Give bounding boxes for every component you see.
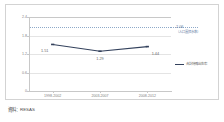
reference-value-label: 2.06（人口置換水準） bbox=[176, 25, 200, 34]
y-tick-mark bbox=[27, 91, 29, 92]
point-value-label: 1.29 bbox=[96, 57, 103, 61]
x-tick-mark bbox=[53, 91, 54, 93]
y-tick-mark bbox=[27, 17, 29, 18]
x-tick-label: 1998-2002 bbox=[44, 94, 61, 98]
y-tick-mark bbox=[27, 36, 29, 37]
reference-value: 2.06 bbox=[176, 25, 183, 29]
series-marker bbox=[51, 44, 54, 46]
x-tick-mark bbox=[100, 91, 101, 93]
y-tick-mark bbox=[27, 54, 29, 55]
series-polyline bbox=[53, 44, 148, 51]
chart-frame: 1.511.291.44 2.41.81.20.60 1998-20022003… bbox=[5, 4, 219, 100]
chart-screenshot: 1.511.291.44 2.41.81.20.60 1998-20022003… bbox=[0, 0, 224, 122]
y-tick-label: 1.8 bbox=[11, 34, 27, 38]
legend-line-swatch bbox=[175, 64, 184, 65]
x-tick-mark bbox=[147, 91, 148, 93]
point-value-label: 1.51 bbox=[41, 49, 48, 53]
x-tick-label: 2003-2007 bbox=[91, 94, 108, 98]
series-marker bbox=[98, 50, 101, 52]
y-tick-label: 0 bbox=[11, 89, 27, 93]
plot-area: 1.511.291.44 bbox=[29, 17, 171, 91]
source-note: 資料：RESAS bbox=[8, 107, 35, 113]
legend-label: 合計特殊出生率 bbox=[186, 62, 207, 66]
y-axis-line bbox=[29, 17, 30, 92]
reference-sublabel: （人口置換水準） bbox=[176, 30, 200, 35]
y-tick-label: 1.2 bbox=[11, 52, 27, 56]
point-value-label: 1.44 bbox=[152, 52, 159, 56]
series-marker bbox=[146, 46, 149, 48]
chart-legend: 合計特殊出生率 bbox=[175, 62, 207, 66]
y-axis-ticks: 2.41.81.20.60 bbox=[9, 17, 27, 92]
x-tick-label: 2008-2012 bbox=[139, 94, 156, 98]
x-axis-ticks: 1998-20022003-20072008-2012 bbox=[29, 94, 171, 100]
series-line bbox=[29, 17, 171, 91]
y-tick-label: 2.4 bbox=[11, 15, 27, 19]
y-tick-label: 0.6 bbox=[11, 71, 27, 75]
y-tick-mark bbox=[27, 73, 29, 74]
